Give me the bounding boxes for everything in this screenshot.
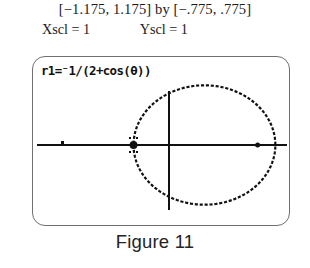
equation-label: r1=⁻1/(2+cos(θ)) [41, 62, 151, 78]
left-vertex-speck-upright [136, 137, 138, 139]
yscl-label: Yscl = 1 [140, 21, 188, 38]
x-axis-tick-minus-one [61, 141, 64, 144]
right-vertex-marker [255, 143, 260, 148]
left-vertex-marker [130, 141, 138, 149]
xscl-label: Xscl = 1 [42, 21, 90, 38]
figure-caption: Figure 11 [0, 231, 310, 253]
calculator-screen-inner: r1=⁻1/(2+cos(θ)) [33, 57, 289, 225]
figure-container: [−1.175, 1.175] by [−.775, .775] Xscl = … [0, 0, 310, 268]
scale-settings-inner: Xscl = 1 Yscl = 1 [36, 21, 274, 38]
viewing-window-range: [−1.175, 1.175] by [−.775, .775] [0, 1, 310, 18]
left-vertex-speck-down [129, 151, 131, 153]
left-vertex-speck-up [129, 137, 131, 139]
scale-settings-row: Xscl = 1 Yscl = 1 [0, 21, 310, 38]
polar-graph-canvas [33, 57, 290, 226]
calculator-screen: r1=⁻1/(2+cos(θ)) [32, 56, 290, 226]
left-vertex-speck-downright [136, 151, 138, 153]
